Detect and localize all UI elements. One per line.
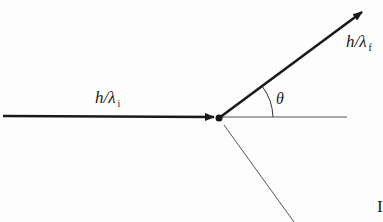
compton-scattering-diagram: h/λi h/λf θ I — [0, 0, 383, 222]
scattered-label-main: h/λ — [346, 32, 367, 51]
vertex-dot — [216, 115, 223, 122]
incident-momentum-arrow — [3, 116, 214, 117]
scattered-label-subscript: f — [369, 42, 372, 53]
diagram-canvas — [0, 0, 383, 222]
angle-theta-arc — [262, 86, 273, 117]
scattered-momentum-arrow — [219, 12, 362, 118]
scattered-momentum-label: h/λf — [346, 33, 372, 50]
cropped-edge-glyph: I — [377, 198, 383, 215]
scatter-angle-label: θ — [276, 91, 284, 107]
recoil-electron-line — [224, 125, 294, 222]
incident-label-main: h/λ — [95, 88, 116, 107]
incident-label-subscript: i — [118, 98, 121, 109]
incident-momentum-label: h/λi — [95, 89, 120, 106]
